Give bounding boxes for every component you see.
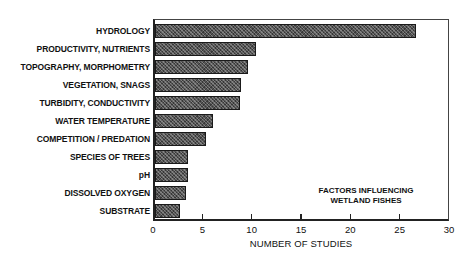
bar: [155, 114, 213, 128]
bar: [155, 96, 240, 110]
x-tick-mark: [202, 214, 204, 220]
x-tick-label: 0: [150, 224, 155, 235]
x-tick-mark: [399, 214, 401, 220]
x-tick-label: 10: [246, 224, 257, 235]
category-label: COMPETITION / PREDATION: [37, 132, 150, 146]
x-tick-label: 20: [345, 224, 356, 235]
category-label: PRODUCTIVITY, NUTRIENTS: [37, 42, 150, 56]
category-label: VEGETATION, SNAGS: [63, 78, 150, 92]
bar: [155, 168, 188, 182]
category-label: DISSOLVED OXYGEN: [64, 186, 150, 200]
category-label: TURBIDITY, CONDUCTIVITY: [39, 96, 150, 110]
annotation-line-2: WETLAND FISHES: [319, 196, 414, 206]
x-tick-label: 25: [394, 224, 405, 235]
category-label: WATER TEMPERATURE: [55, 114, 150, 128]
x-tick-mark: [300, 214, 302, 220]
category-label: SUBSTRATE: [100, 204, 150, 218]
x-axis-title: NUMBER OF STUDIES: [250, 238, 353, 249]
bar: [155, 78, 241, 92]
bar: [155, 24, 416, 38]
chart-annotation: FACTORS INFLUENCING WETLAND FISHES: [319, 186, 414, 206]
bar: [155, 132, 206, 146]
bar: [155, 42, 256, 56]
x-tick-mark: [350, 214, 352, 220]
category-label: HYDROLOGY: [96, 24, 150, 38]
bar: [155, 186, 186, 200]
x-tick-label: 15: [296, 224, 307, 235]
x-tick-label: 30: [444, 224, 455, 235]
category-label: pH: [139, 168, 150, 182]
bar: [155, 204, 180, 218]
x-tick-label: 5: [200, 224, 205, 235]
bar: [155, 150, 188, 164]
bar: [155, 60, 248, 74]
category-label: TOPOGRAPHY, MORPHOMETRY: [21, 60, 150, 74]
category-label: SPECIES OF TREES: [70, 150, 150, 164]
x-tick-mark: [251, 214, 253, 220]
annotation-line-1: FACTORS INFLUENCING: [319, 186, 414, 196]
